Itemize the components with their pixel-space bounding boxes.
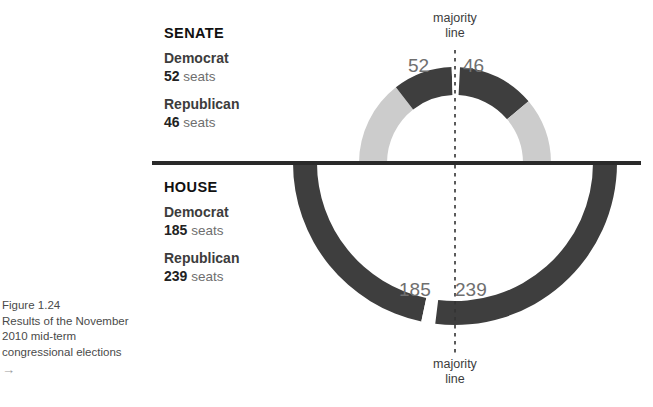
house-arc-value-republican: 239: [455, 280, 487, 300]
senate-arc-value-democrat: 52: [408, 56, 429, 76]
senate-arc-value-republican: 46: [463, 56, 484, 76]
majority-line-label-bottom: majority line: [395, 357, 515, 387]
majority-label-top-line1: majority: [395, 11, 515, 26]
house-segment-2-Republican: [435, 163, 617, 325]
figure-canvas: Figure 1.24 Results of the November 2010…: [0, 0, 653, 407]
senate-segment-2-gap: [452, 67, 460, 95]
majority-line-label-top: majority line: [395, 11, 515, 41]
house-arc-group: [293, 163, 617, 325]
majority-label-top-line2: line: [395, 26, 515, 41]
majority-label-bottom-line2: line: [395, 372, 515, 387]
majority-label-bottom-line1: majority: [395, 357, 515, 372]
horizontal-divider: [152, 161, 641, 165]
semicircle-chart: [0, 0, 653, 407]
house-arc-value-democrat: 185: [399, 280, 431, 300]
